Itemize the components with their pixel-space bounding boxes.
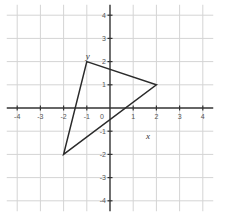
x-tick-label: -2 xyxy=(60,113,66,120)
x-tick-label: 0 xyxy=(100,113,104,120)
y-tick-label: -3 xyxy=(100,174,106,181)
y-tick-label: 4 xyxy=(102,12,106,19)
y-tick-label: -4 xyxy=(100,197,106,204)
y-tick-label: -1 xyxy=(100,128,106,135)
x-tick-label: -1 xyxy=(84,113,90,120)
x-tick-label: -3 xyxy=(37,113,43,120)
y-tick-label: 3 xyxy=(102,35,106,42)
y-axis-label: y xyxy=(85,51,90,61)
x-tick-label: 2 xyxy=(154,113,158,120)
x-tick-label: -4 xyxy=(14,113,20,120)
x-axis-label: x xyxy=(145,131,150,141)
x-tick-label: 1 xyxy=(131,113,135,120)
x-tick-label: 3 xyxy=(178,113,182,120)
axes xyxy=(7,5,213,211)
y-tick-label: 2 xyxy=(102,58,106,65)
x-tick-label: 4 xyxy=(201,113,205,120)
coordinate-plane: -4-3-2-1012344321-1-2-3-4 x y xyxy=(0,0,225,214)
y-tick-label: 1 xyxy=(102,81,106,88)
y-tick-label: -2 xyxy=(100,151,106,158)
